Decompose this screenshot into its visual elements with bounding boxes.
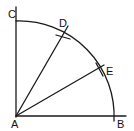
label-b: B: [117, 119, 124, 130]
arc-cb: [16, 21, 114, 121]
label-d: D: [59, 18, 67, 29]
label-e: E: [106, 66, 113, 77]
label-a: A: [11, 119, 18, 130]
trisection-diagram: C D E A B: [0, 0, 134, 131]
line-ae: [16, 65, 104, 116]
label-c: C: [8, 9, 16, 20]
diagram-drawing: [0, 0, 134, 131]
line-ad: [16, 26, 68, 116]
